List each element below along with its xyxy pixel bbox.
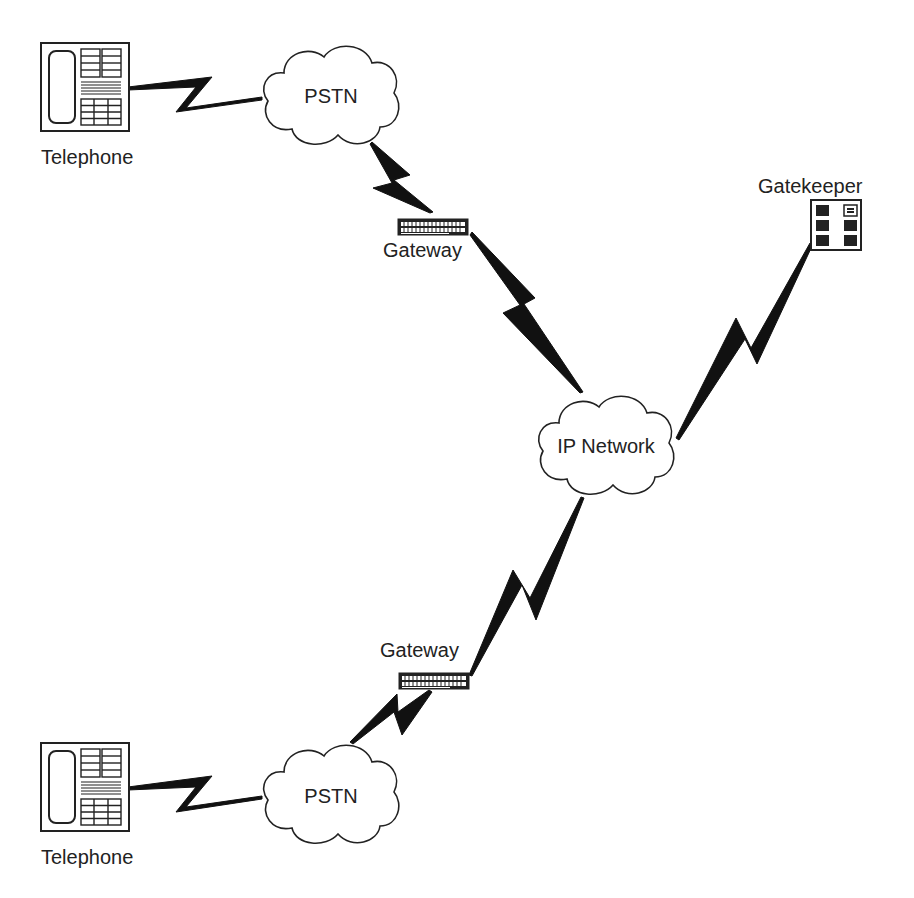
link-gateway-top-ip-network [470, 232, 583, 393]
gatekeeper-label: Gatekeeper [758, 176, 863, 196]
link-telephone-top-pstn-top [128, 77, 262, 112]
gateway-top-label: Gateway [383, 240, 462, 260]
link-gateway-bottom-pstn-bottom [350, 690, 432, 744]
telephone-top-label: Telephone [41, 147, 133, 167]
telephone-top-icon[interactable] [41, 43, 129, 131]
gateway-bottom-label: Gateway [380, 640, 459, 660]
gateway-bottom-icon[interactable] [399, 673, 469, 689]
gateway-top-icon[interactable] [398, 219, 468, 235]
telephone-bottom-label: Telephone [41, 847, 133, 867]
telephone-bottom-icon[interactable] [41, 743, 129, 831]
pstn-bottom-label: PSTN [304, 786, 357, 806]
pstn-top-label: PSTN [304, 86, 357, 106]
link-ip-network-gatekeeper [676, 243, 813, 440]
link-telephone-bottom-pstn-bottom [128, 776, 262, 812]
link-pstn-top-gateway-top [370, 142, 433, 213]
gatekeeper-icon[interactable] [811, 200, 861, 250]
network-diagram [0, 0, 914, 898]
ip-network-label: IP Network [557, 436, 654, 456]
link-ip-network-gateway-bottom [469, 497, 584, 676]
